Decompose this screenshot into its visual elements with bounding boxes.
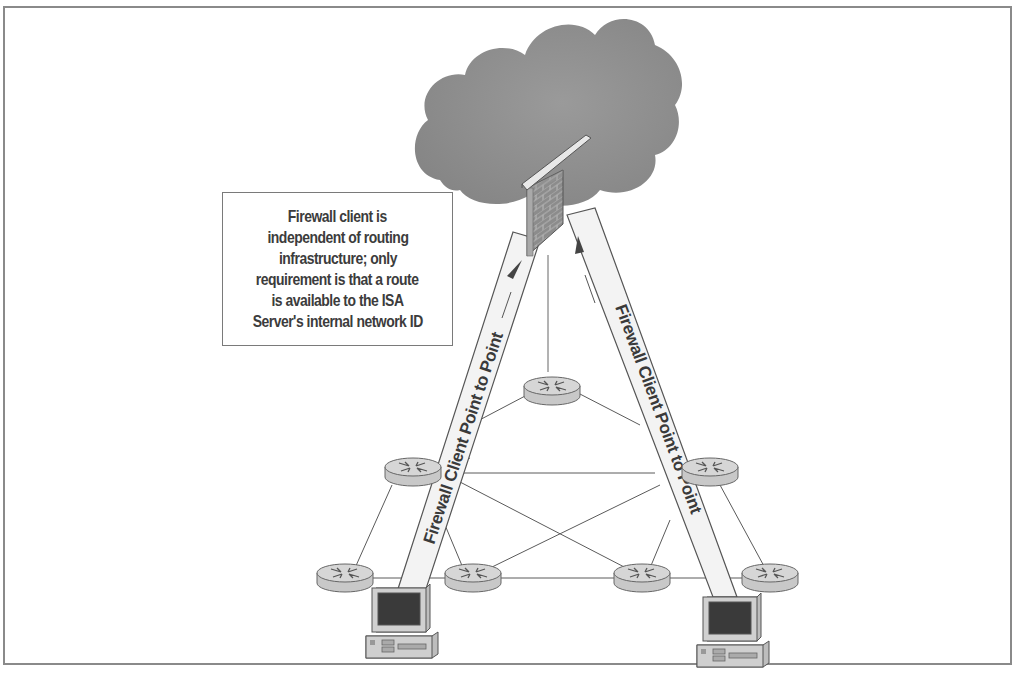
left-beam-label: Firewall Client Point to Point bbox=[420, 329, 507, 546]
router-bottom-center-left-icon bbox=[445, 564, 501, 592]
router-mid-left-icon bbox=[385, 458, 441, 486]
callout-line: Firewall client is bbox=[288, 206, 387, 227]
callout-line: infrastructure; only bbox=[279, 248, 397, 269]
right-beam-label: Firewall Client Point to Point bbox=[611, 302, 706, 517]
router-bottom-right-icon bbox=[742, 564, 798, 592]
router-bottom-left-icon bbox=[317, 564, 373, 592]
client-pc-right-icon bbox=[697, 593, 769, 667]
callout-line: independent of routing bbox=[267, 227, 408, 248]
callout-box: Firewall client is independent of routin… bbox=[222, 192, 453, 346]
right-beam: Firewall Client Point to Point bbox=[567, 208, 737, 597]
router-bottom-center-right-icon bbox=[614, 564, 670, 592]
callout-line: requirement is that a route bbox=[256, 269, 419, 290]
routers bbox=[317, 377, 798, 592]
network-diagram: Firewall Client Point to Point Firewall … bbox=[0, 0, 1017, 675]
callout-line: Server's internal network ID bbox=[252, 311, 422, 332]
callout-line: is available to the ISA bbox=[271, 290, 403, 311]
client-pc-left-icon bbox=[366, 584, 438, 658]
router-mid-right-icon bbox=[682, 458, 738, 486]
router-top-icon bbox=[524, 377, 580, 405]
diagram-canvas: Firewall Client Point to Point Firewall … bbox=[0, 0, 1017, 675]
